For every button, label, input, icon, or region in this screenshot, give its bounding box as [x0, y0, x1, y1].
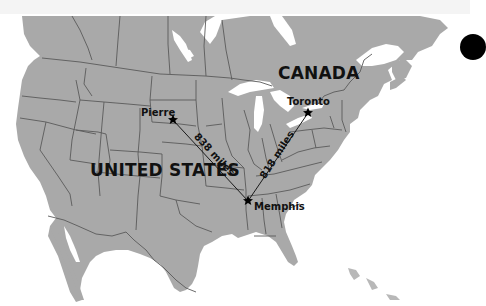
city-label-memphis: Memphis	[254, 201, 305, 212]
black-circle-marker	[460, 34, 486, 60]
label-canada: CANADA	[278, 63, 360, 83]
nova-scotia	[390, 76, 406, 90]
city-label-pierre: Pierre	[141, 107, 175, 118]
city-label-toronto: Toronto	[287, 96, 330, 107]
caribbean-islands	[348, 268, 400, 300]
